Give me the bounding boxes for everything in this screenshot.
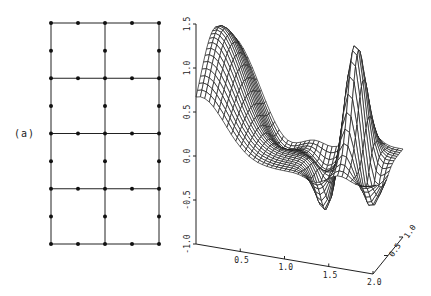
mesh-node — [130, 76, 134, 80]
mesh-node — [157, 104, 161, 108]
mesh-node — [130, 187, 134, 191]
mesh-node — [103, 76, 107, 80]
mesh-node — [49, 242, 53, 246]
mesh-node — [49, 214, 53, 218]
mesh-node — [157, 187, 161, 191]
z-tick-label: 0.0 — [183, 149, 192, 164]
x-tick-label: 1.5 — [323, 271, 338, 280]
mesh-node — [103, 104, 107, 108]
mesh-node — [157, 159, 161, 163]
mesh-node — [157, 49, 161, 53]
mesh-node — [103, 21, 107, 25]
mesh-node — [76, 187, 80, 191]
finite-element-mesh — [49, 21, 161, 246]
mesh-node — [49, 21, 53, 25]
mesh-node — [103, 49, 107, 53]
mesh-node — [103, 159, 107, 163]
z-tick-label: 1.0 — [183, 61, 192, 76]
mesh-node — [103, 242, 107, 246]
x-tick-label: 2.0 — [367, 278, 382, 287]
surface-plot: 1.51.00.50.0-0.5-1.00.51.01.52.00.51.0 — [183, 17, 418, 287]
y-tick-label: 0.5 — [387, 241, 403, 258]
mesh-node — [130, 242, 134, 246]
x-tick-label: 0.5 — [234, 256, 249, 265]
mesh-node — [157, 76, 161, 80]
mesh-node — [76, 21, 80, 25]
mesh-node — [130, 21, 134, 25]
mesh-node — [49, 104, 53, 108]
mesh-node — [157, 132, 161, 136]
figure-canvas: 1.51.00.50.0-0.5-1.00.51.01.52.00.51.0 — [0, 0, 431, 296]
z-tick-label: 1.5 — [183, 17, 192, 32]
mesh-node — [103, 132, 107, 136]
mesh-node — [49, 159, 53, 163]
z-tick-label: -0.5 — [183, 190, 192, 209]
mesh-node — [157, 242, 161, 246]
mesh-node — [130, 132, 134, 136]
z-tick-label: 0.5 — [183, 105, 192, 120]
z-tick-label: -1.0 — [183, 234, 192, 253]
mesh-node — [103, 214, 107, 218]
mesh-node — [76, 242, 80, 246]
mesh-node — [76, 132, 80, 136]
y-tick-label: 1.0 — [402, 223, 418, 240]
mesh-node — [49, 132, 53, 136]
mesh-node — [157, 21, 161, 25]
mesh-node — [49, 187, 53, 191]
mesh-node — [76, 76, 80, 80]
mesh-node — [49, 49, 53, 53]
x-tick-label: 1.0 — [279, 263, 294, 272]
mesh-node — [49, 76, 53, 80]
surface-wireframe — [196, 26, 403, 210]
mesh-node — [103, 187, 107, 191]
mesh-node — [157, 214, 161, 218]
